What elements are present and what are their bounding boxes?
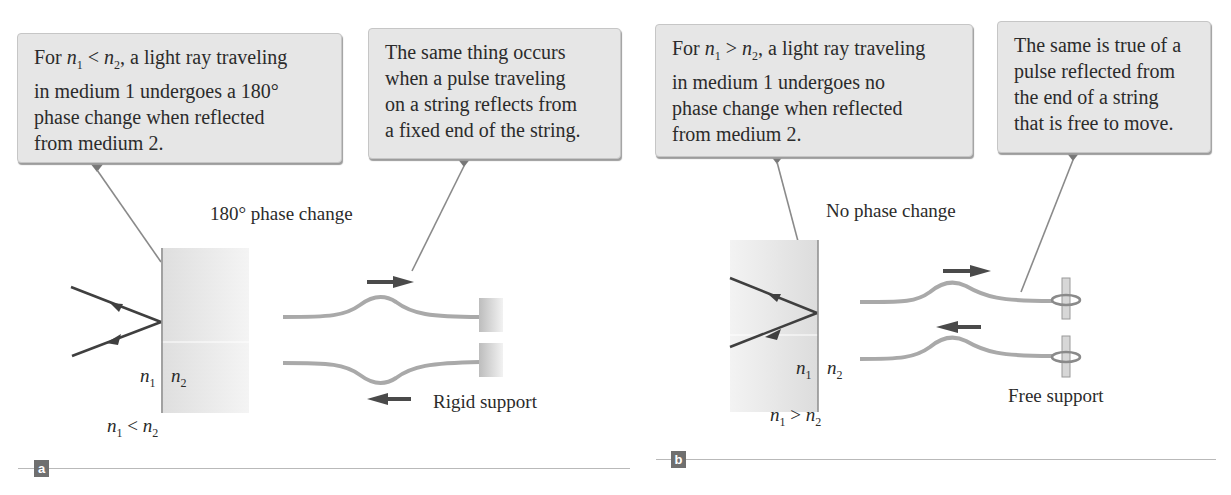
panel-a-divider [18,468,630,469]
pointer-line [97,170,161,262]
panel-a-graphics [71,158,503,413]
n1-symbol: n1 [705,37,721,59]
n1-symbol: n1 [67,46,83,68]
rigid-support-label: Rigid support [433,391,537,413]
callout-pointer-icon [457,158,471,167]
string-reflected-pulse [283,362,480,383]
string-incident-pulse [283,297,480,317]
rigid-wall [479,298,503,332]
phase-change-label-b: No phase change [826,200,956,222]
free-support-label: Free support [1008,385,1104,407]
interface-labels-b: n1 n2 [796,357,843,383]
n2-symbol: n2 [104,46,120,68]
interface-labels-a: n1 n2 [140,365,187,391]
free-support-post [1062,336,1070,377]
panel-b-divider [656,459,1216,460]
panel-a-badge: a [34,460,49,477]
medium-1-block [730,240,818,412]
panel-b-graphics [730,152,1080,412]
callout-a-string: The same thing occurs when a pulse trave… [368,28,621,159]
free-support-post [1062,278,1070,319]
phase-change-label-a: 180° phase change [210,203,353,225]
n2-symbol: n2 [742,37,758,59]
pointer-line [1021,160,1073,292]
pointer-line [412,166,464,271]
callout-b-string: The same is true of a pulse reflected fr… [997,21,1211,153]
rigid-wall [479,343,503,377]
condition-label-a: n1 < n2 [107,415,158,441]
condition-label-b: n1 > n2 [770,404,821,430]
callout-pointer-icon [1066,152,1080,161]
string-reflected-pulse [860,338,1052,359]
callout-b-optics: For n1 > n2, a light ray traveling in me… [655,24,973,157]
callout-a-optics: For n1 < n2, a light ray traveling in me… [17,33,342,163]
panel-b-badge: b [671,451,686,468]
